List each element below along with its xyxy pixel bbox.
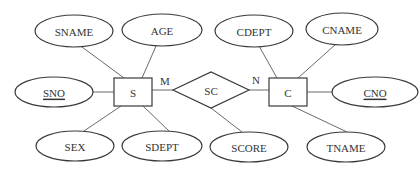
- attribute-label: AGE: [151, 25, 174, 37]
- attribute-label: SDEPT: [145, 141, 179, 153]
- attribute-sname[interactable]: SNAME: [35, 15, 113, 47]
- relationship-sc[interactable]: SC: [173, 72, 249, 108]
- attribute-label: CNO: [363, 87, 386, 99]
- attribute-sdept[interactable]: SDEPT: [122, 131, 202, 161]
- edge-score: [211, 108, 242, 132]
- attribute-sno[interactable]: SNO: [15, 77, 93, 107]
- attribute-label: SCORE: [231, 142, 267, 154]
- attribute-tname[interactable]: TNAME: [307, 132, 385, 162]
- edge-cdept: [259, 46, 277, 78]
- entity-label: S: [130, 87, 136, 99]
- cardinality-n: N: [252, 74, 260, 86]
- attribute-cno[interactable]: CNO: [332, 77, 418, 107]
- edge-sex: [84, 106, 121, 131]
- attribute-label: CNAME: [322, 24, 362, 36]
- edge-sname: [82, 47, 124, 78]
- attribute-age[interactable]: AGE: [122, 14, 202, 46]
- attribute-score[interactable]: SCORE: [210, 132, 288, 162]
- er-diagram: SNAMEAGESNOSEXSDEPTCDEPTCNAMECNOSCORETNA…: [0, 0, 420, 176]
- relationship-label: SC: [204, 85, 217, 97]
- edge-sdept: [143, 106, 169, 131]
- attribute-label: CDEPT: [237, 26, 272, 38]
- diagram-shapes: SNAMEAGESNOSEXSDEPTCDEPTCNAMECNOSCORETNA…: [15, 13, 418, 162]
- edge-age: [142, 46, 156, 78]
- attribute-label: TNAME: [326, 142, 365, 154]
- entity-s[interactable]: S: [114, 78, 152, 106]
- edge-tname: [292, 106, 347, 132]
- edge-cname: [298, 44, 336, 78]
- attribute-cdept[interactable]: CDEPT: [215, 15, 293, 47]
- attribute-label: SNAME: [55, 26, 94, 38]
- entity-c[interactable]: C: [269, 78, 307, 106]
- attribute-sex[interactable]: SEX: [36, 131, 114, 161]
- attribute-cname[interactable]: CNAME: [306, 13, 378, 45]
- cardinality-m: M: [160, 75, 170, 87]
- attribute-label: SEX: [65, 141, 86, 153]
- attribute-label: SNO: [43, 87, 65, 99]
- entity-label: C: [284, 87, 291, 99]
